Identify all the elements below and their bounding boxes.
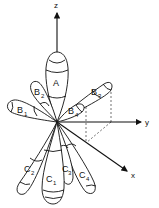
label-a: A: [53, 78, 59, 88]
label-b2: B: [34, 87, 40, 97]
x-axis-label: x: [131, 171, 135, 180]
z-axis-label: z: [54, 1, 58, 10]
label-c2: C: [24, 164, 31, 174]
lobe-diagram: z y x: [0, 0, 159, 208]
y-axis-label: y: [145, 118, 149, 127]
label-b3: B: [91, 87, 97, 97]
label-b4: B: [68, 106, 74, 116]
label-c1: C: [46, 174, 53, 184]
label-b1: B: [17, 105, 23, 115]
label-c4: C: [79, 170, 86, 180]
